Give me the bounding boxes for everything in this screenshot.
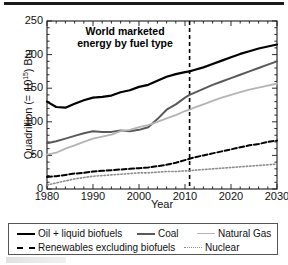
y-tick-label: 250 <box>17 14 43 26</box>
y-tick-label: 200 <box>17 48 43 60</box>
legend-item-label: Nuclear <box>205 242 239 253</box>
x-tick-label: 1990 <box>73 190 113 202</box>
legend-item-oil-liquid-biofuels[interactable]: Oil + liquid biofuels <box>17 226 122 240</box>
legend-item-renewables-excluding-biofuels[interactable]: Renewables excluding biofuels <box>17 240 175 254</box>
chart-title: World marketed energy by fuel type <box>60 25 190 49</box>
legend-row-2: Renewables excluding biofuelsNuclear <box>9 240 277 254</box>
x-tick-label: 2020 <box>211 190 251 202</box>
legend-item-natural-gas[interactable]: Natural Gas <box>197 226 271 240</box>
legend-swatch-icon <box>197 228 215 238</box>
chart-legend: Oil + liquid biofuelsCoalNatural Gas Ren… <box>8 223 278 255</box>
chart-title-line-1: World marketed <box>60 25 190 37</box>
y-tick-label: 150 <box>17 81 43 93</box>
series-line-nuclear <box>47 164 277 185</box>
legend-row-1: Oil + liquid biofuelsCoalNatural Gas <box>9 226 277 240</box>
legend-item-label: Natural Gas <box>218 228 271 239</box>
cropped-caption-fragment <box>6 257 66 263</box>
y-tick-label: 100 <box>17 115 43 127</box>
chart-title-line-2: energy by fuel type <box>60 37 190 49</box>
x-tick-label: 2030 <box>257 190 288 202</box>
x-tick-label: 1980 <box>27 190 67 202</box>
y-tick-label: 50 <box>17 148 43 160</box>
series-line-oil-liquid-biofuels <box>47 45 277 108</box>
legend-swatch-icon <box>137 228 155 238</box>
x-tick-label: 2010 <box>165 190 205 202</box>
legend-item-coal[interactable]: Coal <box>137 226 179 240</box>
x-tick-label: 2000 <box>119 190 159 202</box>
legend-swatch-icon <box>184 242 202 252</box>
legend-item-label: Renewables excluding biofuels <box>38 242 175 253</box>
chart-plot-area: World marketed energy by fuel type Quadr… <box>0 0 288 215</box>
legend-item-label: Coal <box>158 228 179 239</box>
series-line-natural-gas <box>47 84 277 155</box>
figure-container: World marketed energy by fuel type Quadr… <box>0 0 288 265</box>
legend-item-label: Oil + liquid biofuels <box>38 228 122 239</box>
legend-swatch-icon <box>17 228 35 238</box>
legend-swatch-icon <box>17 242 35 252</box>
legend-item-nuclear[interactable]: Nuclear <box>184 240 239 254</box>
y-axis-label-exponent: 15 <box>22 72 29 80</box>
